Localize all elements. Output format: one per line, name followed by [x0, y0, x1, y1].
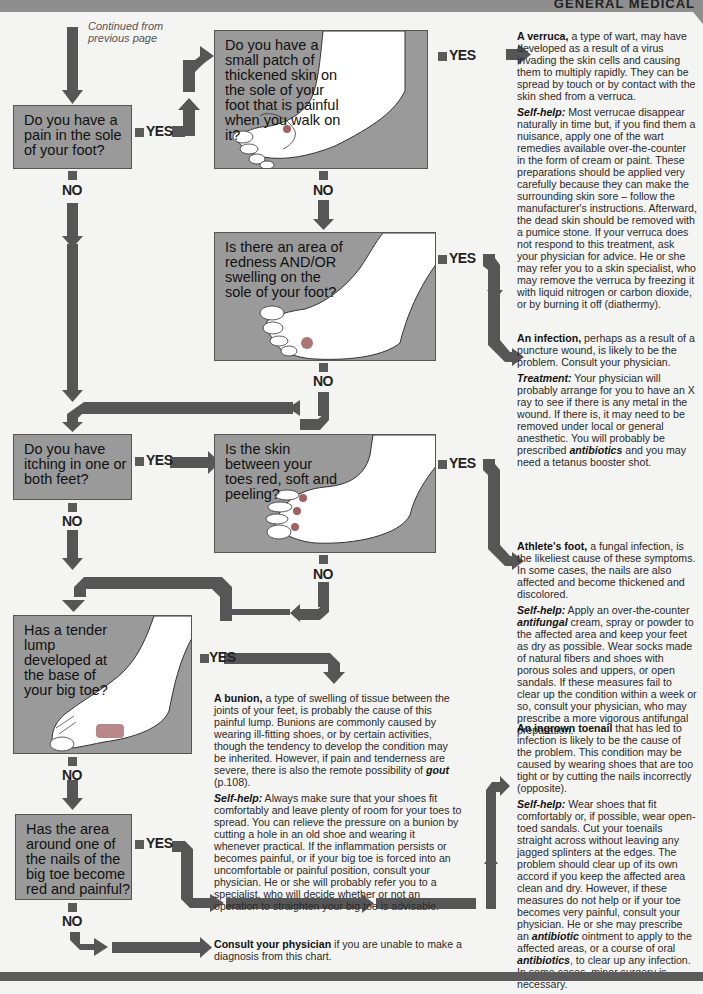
no-marker: [68, 757, 77, 766]
outcome-bunion: A bunion, a type of swelling of tissue b…: [214, 692, 462, 916]
yes-marker: [135, 128, 144, 137]
yes-marker: [438, 255, 447, 264]
no-marker: [319, 363, 328, 372]
no-marker: [68, 171, 77, 180]
yes-marker: [135, 457, 144, 466]
question-box-redness-swelling[interactable]: Is there an area of redness AND/OR swell…: [214, 232, 436, 361]
no-label: NO: [62, 182, 82, 198]
yes-marker: [438, 52, 447, 61]
yes-label: YES: [209, 649, 236, 665]
no-label: NO: [313, 373, 333, 389]
question-text: Has a tender lump developed at the base …: [24, 623, 124, 698]
no-marker: [68, 903, 77, 912]
no-label: NO: [62, 513, 82, 529]
continued-note: Continued from previous page: [88, 20, 163, 44]
yes-label: YES: [146, 452, 173, 468]
outcome-athletes-foot: Athlete's foot, a fungal infection, is t…: [517, 540, 697, 740]
no-label: NO: [313, 182, 333, 198]
no-label: NO: [313, 566, 333, 582]
question-box-thickened-skin[interactable]: Do you have a small patch of thickened s…: [214, 30, 428, 169]
outcome-verruca: A verruca, a type of wart, may have deve…: [517, 30, 697, 314]
outcome-ingrown-toenail: An ingrown toenail that has led to infec…: [517, 722, 697, 994]
outcome-infection: An infection, perhaps as a result of a p…: [517, 332, 697, 472]
no-label: NO: [62, 767, 82, 783]
yes-label: YES: [449, 250, 476, 266]
yes-label: YES: [449, 47, 476, 63]
outcome-consult-physician: Consult your physician if you are unable…: [214, 938, 474, 966]
no-label: NO: [62, 913, 82, 929]
yes-label: YES: [146, 123, 173, 139]
question-box-tender-lump[interactable]: Has a tender lump developed at the base …: [13, 615, 192, 754]
yes-marker: [438, 460, 447, 469]
question-text: Do you have a pain in the sole of your f…: [24, 113, 132, 158]
yes-marker: [135, 840, 144, 849]
yes-label: YES: [449, 455, 476, 471]
no-marker: [68, 503, 77, 512]
question-text: Do you have a small patch of thickened s…: [225, 38, 345, 143]
no-marker: [319, 171, 328, 180]
question-text: Do you have itching in one or both feet?: [24, 442, 130, 487]
question-box-itching[interactable]: Do you have itching in one or both feet?: [13, 434, 132, 500]
question-box-skin-between-toes[interactable]: Is the skin between your toes red, soft …: [214, 434, 436, 553]
yes-label: YES: [146, 835, 173, 851]
no-marker: [319, 555, 328, 564]
question-text: Is there an area of redness AND/OR swell…: [225, 240, 343, 300]
footer-bar: [0, 972, 703, 981]
question-box-nail-redness[interactable]: Has the area around one of the nails of …: [15, 814, 132, 900]
yes-marker: [200, 654, 209, 663]
question-text: Is the skin between your toes red, soft …: [225, 442, 343, 502]
question-text: Has the area around one of the nails of …: [26, 822, 130, 897]
question-box-sole-pain[interactable]: Do you have a pain in the sole of your f…: [13, 105, 132, 169]
